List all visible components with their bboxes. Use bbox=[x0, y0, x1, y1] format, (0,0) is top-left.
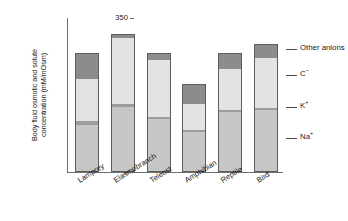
legend-label: Na+ bbox=[300, 132, 313, 142]
bar-amphibian[interactable] bbox=[182, 84, 206, 172]
bar-segment-cl bbox=[183, 104, 205, 130]
legend-leader-line-icon bbox=[286, 49, 297, 50]
chart-figure: Body fluid osmotic and solute concentrat… bbox=[0, 0, 348, 221]
bar-segment-otheranions bbox=[148, 53, 170, 60]
bar-reptile[interactable] bbox=[218, 53, 242, 172]
y-axis-tick-label: 350 bbox=[115, 13, 128, 23]
bar-segment-cl bbox=[255, 58, 277, 108]
y-axis-title-line-2: concentration (mM/mOsm) bbox=[39, 12, 48, 178]
bar-segment-otheranions bbox=[76, 53, 98, 79]
bar-segment-k bbox=[183, 130, 205, 132]
bar-segment-na bbox=[219, 112, 241, 171]
bar-segment-k bbox=[219, 110, 241, 113]
bar-segment-k bbox=[148, 117, 170, 119]
y-axis-title: Body fluid osmotic and solute concentrat… bbox=[0, 0, 40, 190]
bar-segment-na bbox=[255, 110, 277, 171]
legend-label: K+ bbox=[300, 101, 308, 111]
bar-segment-cl bbox=[112, 38, 134, 104]
bar-bird[interactable] bbox=[254, 44, 278, 172]
bar-segment-cl bbox=[219, 69, 241, 109]
bar-segment-k bbox=[255, 108, 277, 111]
bar-segment-k bbox=[112, 104, 134, 108]
legend-label: Other anions bbox=[300, 43, 345, 53]
bar-segment-cl bbox=[148, 60, 170, 117]
bar-segment-na bbox=[112, 107, 134, 171]
bar-segment-cl bbox=[76, 79, 98, 121]
y-axis-title-line-1: Body fluid osmotic and solute bbox=[30, 12, 39, 178]
bar-elasmobranch[interactable] bbox=[111, 34, 135, 172]
bar-segment-otheranions bbox=[112, 34, 134, 37]
legend-leader-line-icon bbox=[286, 75, 297, 76]
plot-area: 050100150200250300350 bbox=[67, 18, 282, 172]
y-axis-tick-mark bbox=[130, 18, 134, 19]
bar-segment-k bbox=[76, 121, 98, 125]
legend-leader-line-icon bbox=[286, 107, 297, 108]
bar-lamprey[interactable] bbox=[75, 53, 99, 172]
bar-segment-otheranions bbox=[183, 84, 205, 104]
legend-leader-line-icon bbox=[286, 138, 297, 139]
bar-segment-otheranions bbox=[255, 44, 277, 58]
bar-segment-otheranions bbox=[219, 53, 241, 69]
legend-label: C− bbox=[300, 69, 309, 79]
